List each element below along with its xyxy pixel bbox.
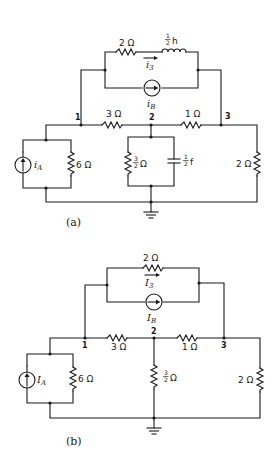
node-2-a: 2 [149, 113, 155, 122]
ground-icon [144, 212, 158, 218]
label-2ohm-right-b: 2 Ω [238, 375, 254, 385]
resistor-3-2ohm-a [125, 152, 131, 176]
current-source-iA-a [15, 157, 31, 173]
svg-text:3: 3 [134, 155, 138, 162]
node-1-b: 1 [82, 341, 88, 350]
label-top-resistor-b: 2 Ω [143, 253, 159, 263]
label-2ohm-right-a: 2 Ω [236, 159, 252, 169]
svg-text:2: 2 [164, 376, 168, 383]
circuit-a: 2 Ω 1 2 h i3 iB 1 2 3 3 Ω 1 Ω iA 6 Ω 3 2… [15, 32, 260, 229]
resistor-2ohm-top-a [116, 49, 136, 55]
ground-icon [147, 428, 161, 434]
resistor-6ohm-b [70, 367, 76, 391]
svg-text:1: 1 [184, 153, 188, 160]
resistor-3ohm-b [107, 335, 127, 341]
label-3ohm-b: 3 Ω [111, 342, 127, 352]
resistor-3ohm-a [102, 122, 122, 128]
label-6ohm-a: 6 Ω [76, 160, 92, 170]
label-3-2ohm-b: Ω [170, 373, 177, 383]
svg-text:2: 2 [134, 162, 138, 169]
current-source-iB-a [144, 80, 160, 96]
resistor-2ohm-right-b [257, 368, 263, 392]
resistor-2ohm-top-b [143, 265, 163, 271]
label-IB-b: IB [146, 312, 156, 325]
circuit-b: 2 Ω I3 IB 1 2 3 3 Ω 1 Ω IA 6 Ω 3 2 Ω 2 Ω… [19, 253, 263, 448]
label-3-2ohm-a: Ω [140, 159, 147, 169]
label-IA-b: IA [36, 374, 46, 387]
caption-b: (b) [66, 435, 82, 448]
svg-text:1: 1 [166, 32, 170, 39]
label-iB-a: iB [147, 98, 155, 111]
label-i3-a: i3 [146, 59, 154, 72]
svg-text:3: 3 [164, 369, 168, 376]
resistor-3-2ohm-b [151, 365, 157, 389]
caption-a: (a) [66, 216, 81, 229]
label-1ohm-a: 1 Ω [185, 109, 201, 119]
label-3ohm-a: 3 Ω [106, 109, 122, 119]
resistor-1ohm-b [177, 335, 197, 341]
capacitor-a [168, 159, 180, 163]
resistor-1ohm-a [181, 122, 201, 128]
node-3-b: 3 [221, 341, 227, 350]
resistor-2ohm-right-a [254, 152, 260, 176]
label-I3-b: I3 [144, 277, 154, 290]
label-capacitor-a: f [190, 157, 194, 167]
svg-text:2: 2 [166, 39, 170, 46]
node-2-b: 2 [151, 327, 157, 336]
resistor-6ohm-a [68, 152, 74, 176]
node-3-a: 3 [225, 112, 231, 121]
label-inductor-a: h [172, 36, 178, 46]
label-top-resistor-a: 2 Ω [119, 38, 135, 48]
node-1-a: 1 [75, 113, 81, 122]
label-1ohm-b: 1 Ω [182, 342, 198, 352]
current-source-IB-b [146, 294, 162, 310]
svg-text:2: 2 [184, 160, 188, 167]
inductor-a [162, 49, 186, 52]
current-source-IA-b [19, 372, 35, 388]
label-6ohm-b: 6 Ω [78, 374, 94, 384]
label-iA-a: iA [34, 159, 42, 172]
circuit-diagrams: 2 Ω 1 2 h i3 iB 1 2 3 3 Ω 1 Ω iA 6 Ω 3 2… [0, 0, 279, 456]
